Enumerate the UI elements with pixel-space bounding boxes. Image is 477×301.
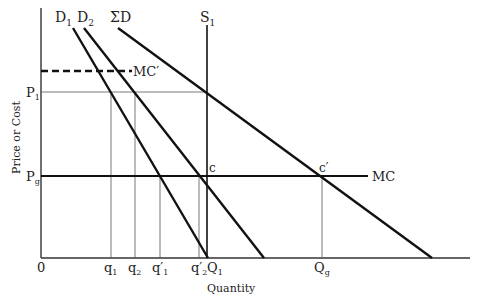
label-pg: Pg (26, 169, 40, 186)
label-q2: q2 (128, 260, 141, 277)
label-d2: D2 (77, 9, 94, 28)
label-q1-prime: q′1 (152, 260, 168, 277)
label-Q1: Q1 (207, 260, 223, 277)
label-point-c: c (209, 161, 216, 175)
label-sum-d: ΣD (110, 9, 131, 25)
label-d1: D1 (55, 9, 72, 28)
label-origin: 0 (37, 260, 45, 275)
supply-demand-diagram: D1 D2 ΣD S1 MC′ MC P1 Pg c c′ 0 q1 q2 q′… (0, 0, 477, 301)
label-mc: MC (372, 169, 395, 184)
label-p1: P1 (26, 85, 40, 102)
demand-line-d1 (73, 28, 208, 258)
aggregate-demand-line (118, 28, 432, 258)
label-q1: q1 (104, 260, 117, 277)
label-mc-prime: MC′ (133, 64, 159, 79)
label-q2-prime: q′2 (191, 260, 207, 277)
x-axis-title: Quantity (207, 282, 256, 295)
label-Qg: Qg (314, 260, 330, 277)
y-axis-title: Price or Cost (10, 101, 23, 174)
label-point-c-prime: c′ (319, 161, 329, 175)
